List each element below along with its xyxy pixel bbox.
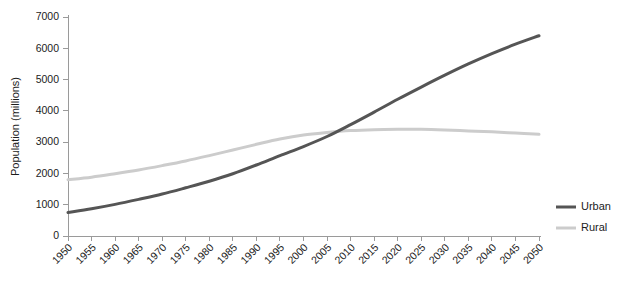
x-axis-tick-label: 2050 — [520, 241, 545, 266]
x-axis-tick-label: 1960 — [97, 241, 122, 266]
x-axis-tick-label: 1965 — [120, 241, 145, 266]
y-axis-tick-label: 3000 — [36, 135, 60, 147]
y-axis-title: Population (millions) — [9, 77, 21, 176]
y-axis-tick-label: 7000 — [36, 10, 60, 22]
series-line-rural — [68, 129, 539, 179]
x-axis-tick-label: 1955 — [73, 241, 98, 266]
x-axis-tick-label: 2010 — [332, 241, 357, 266]
x-axis-tick-label: 2005 — [308, 241, 333, 266]
x-axis-tick-label: 1995 — [261, 241, 286, 266]
x-axis-tick-label: 2045 — [497, 241, 522, 266]
x-axis-tick-label: 2035 — [450, 241, 475, 266]
x-axis: 1950195519601965197019751980198519901995… — [49, 236, 545, 266]
legend-label-rural: Rural — [581, 221, 607, 233]
y-axis-tick-label: 6000 — [36, 42, 60, 54]
chart-legend: UrbanRural — [556, 200, 611, 233]
x-axis-tick-label: 1950 — [49, 241, 74, 266]
x-axis-tick-label: 1970 — [144, 241, 169, 266]
population-line-chart: 01000200030004000500060007000 1950195519… — [0, 0, 628, 283]
x-axis-tick-label: 1990 — [238, 241, 263, 266]
legend-label-urban: Urban — [581, 200, 611, 212]
series-lines — [68, 36, 539, 213]
x-axis-tick-label: 2000 — [285, 241, 310, 266]
chart-canvas: 01000200030004000500060007000 1950195519… — [0, 0, 628, 283]
x-axis-tick-label: 2030 — [426, 241, 451, 266]
y-axis-tick-label: 4000 — [36, 104, 60, 116]
x-axis-tick-label: 2025 — [403, 241, 428, 266]
y-axis-tick-label: 2000 — [36, 167, 60, 179]
y-axis-tick-label: 0 — [53, 229, 59, 241]
y-axis-tick-label: 1000 — [36, 198, 60, 210]
y-axis-tick-label: 5000 — [36, 73, 60, 85]
x-axis-tick-label: 1975 — [167, 241, 192, 266]
x-axis-tick-label: 1980 — [191, 241, 216, 266]
y-axis-title-text: Population (millions) — [9, 77, 21, 176]
y-axis: 01000200030004000500060007000 — [36, 10, 68, 241]
series-line-urban — [68, 36, 539, 213]
x-axis-tick-label: 2040 — [473, 241, 498, 266]
x-axis-tick-label: 1985 — [214, 241, 239, 266]
x-axis-tick-label: 2020 — [379, 241, 404, 266]
x-axis-tick-label: 2015 — [356, 241, 381, 266]
